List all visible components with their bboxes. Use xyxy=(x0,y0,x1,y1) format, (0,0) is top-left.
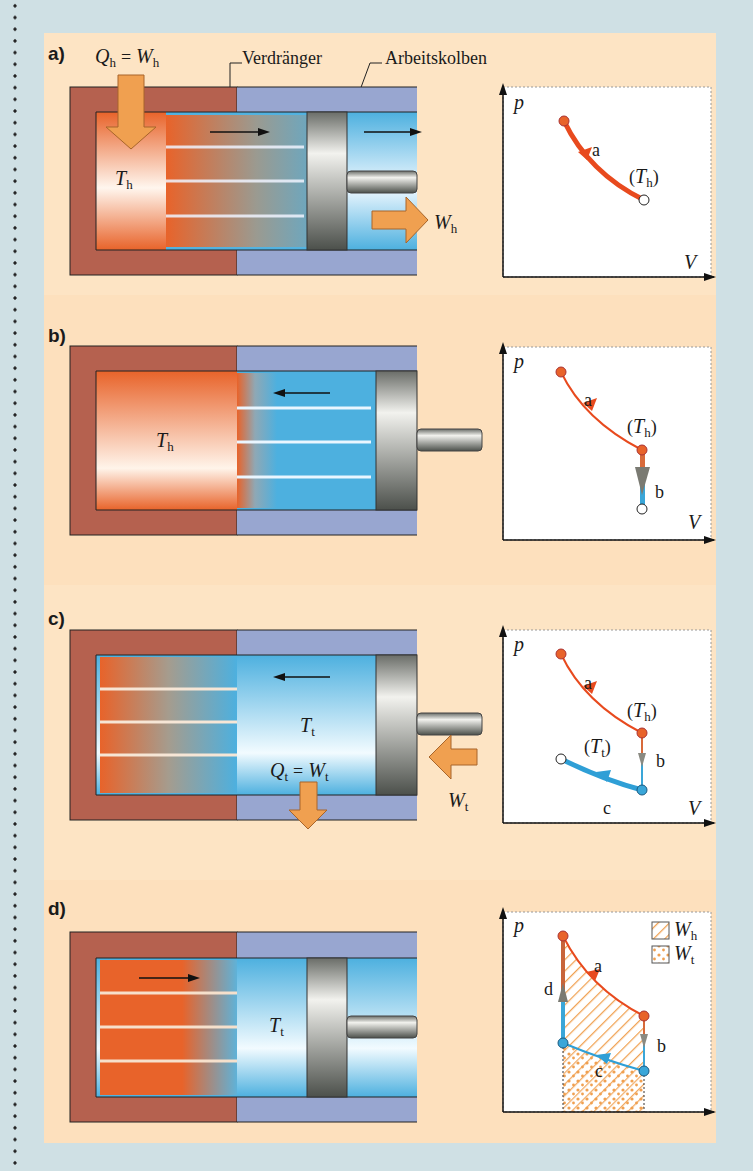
panel-label: b) xyxy=(48,325,66,346)
svg-text:b: b xyxy=(656,751,665,771)
panel-b: b) Th p V a b (Th) xyxy=(44,295,716,585)
svg-text:Qh=Wh: Qh=Wh xyxy=(95,45,160,70)
displacer-label: Verdränger xyxy=(242,48,322,68)
svg-text:(Th): (Th) xyxy=(627,415,657,440)
svg-text:p: p xyxy=(512,633,524,656)
panel-label: a) xyxy=(48,43,65,64)
svg-text:c: c xyxy=(603,798,611,818)
svg-text:Qt=Wt: Qt=Wt xyxy=(270,759,329,784)
svg-text:p: p xyxy=(512,914,524,937)
svg-text:p: p xyxy=(512,350,524,373)
svg-text:p: p xyxy=(512,91,524,114)
panel-label: d) xyxy=(48,898,66,919)
svg-text:b: b xyxy=(655,482,664,502)
pv-diagram-a: p V a (Th) xyxy=(499,83,716,281)
svg-text:Wt: Wt xyxy=(448,789,469,814)
panel-c: c) Tt Qt=Wt Wt p V a b c (Th) (Tt) xyxy=(44,585,716,880)
svg-text:Wh: Wh xyxy=(434,211,458,236)
pv-diagram-b: p V a b (Th) xyxy=(499,342,716,544)
svg-text:c: c xyxy=(595,1061,603,1081)
panel-label: c) xyxy=(48,608,65,629)
panel-a: a) Qh=Wh Verdränger Arbeitskolben Th Wh … xyxy=(44,33,716,295)
pv-diagram-d: p V a b c d Wh Wt xyxy=(499,907,716,1116)
svg-text:a: a xyxy=(594,956,602,976)
panel-d: d) Tt p V a b c d xyxy=(44,880,716,1143)
svg-text:d: d xyxy=(544,979,553,999)
svg-text:a: a xyxy=(592,140,600,160)
pv-diagram-c: p V a b c (Th) (Tt) xyxy=(499,625,716,827)
work-in-arrow xyxy=(429,735,477,779)
svg-text:b: b xyxy=(657,1036,666,1056)
svg-text:a: a xyxy=(584,390,592,410)
svg-text:(Th): (Th) xyxy=(627,699,657,724)
svg-text:a: a xyxy=(584,673,592,693)
svg-text:(Tt): (Tt) xyxy=(584,735,611,760)
dotted-margin xyxy=(12,0,18,1171)
svg-text:(Th): (Th) xyxy=(629,165,659,190)
piston-label: Arbeitskolben xyxy=(385,48,487,68)
